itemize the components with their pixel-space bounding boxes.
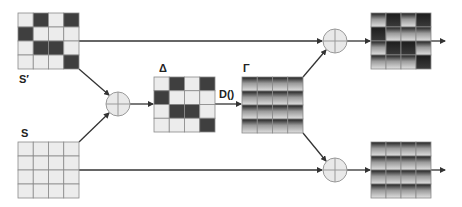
matrix-cell	[386, 13, 401, 27]
matrix-cell	[401, 184, 416, 198]
matrix-cell	[273, 91, 288, 105]
matrix-cell	[257, 119, 272, 133]
matrix-cell	[200, 105, 215, 119]
matrix-cell	[416, 27, 431, 41]
sum-node-top	[323, 29, 347, 53]
matrix-cell	[154, 91, 169, 105]
matrix-cell	[416, 170, 431, 184]
matrix-cell	[401, 156, 416, 170]
label-delta: Δ	[159, 62, 167, 74]
matrix-cell	[64, 156, 79, 170]
matrix-cell	[49, 13, 64, 27]
matrix-cell	[18, 55, 33, 69]
sum-node-1	[106, 92, 130, 116]
matrix-cell	[18, 184, 33, 198]
matrix-cell	[154, 77, 169, 91]
label-d-function: D()	[219, 88, 235, 100]
matrix-cell	[416, 55, 431, 69]
matrix-cell	[401, 170, 416, 184]
matrix-cell	[33, 27, 48, 41]
matrix-cell	[33, 156, 48, 170]
matrix-cell	[288, 105, 303, 119]
matrix-cell	[154, 105, 169, 119]
matrix-s	[18, 142, 79, 198]
arrow-gamma-to-bottom-sum	[303, 133, 326, 161]
arrow-gamma-to-top-sum	[303, 50, 326, 77]
matrix-cell	[33, 184, 48, 198]
label-s-prime: S′	[19, 73, 29, 85]
matrix-cell	[288, 119, 303, 133]
arrow-sprime-to-sum	[79, 69, 109, 95]
matrix-cell	[18, 41, 33, 55]
matrix-cell	[401, 55, 416, 69]
sum-node-bottom	[323, 158, 347, 182]
matrix-cell	[33, 142, 48, 156]
matrix-cell	[18, 170, 33, 184]
matrix-cell	[416, 142, 431, 156]
matrix-cell	[64, 41, 79, 55]
matrix-cell	[242, 119, 257, 133]
matrix-cell	[257, 77, 272, 91]
matrix-cell	[371, 156, 386, 170]
matrix-cell	[18, 142, 33, 156]
matrix-cell	[18, 156, 33, 170]
matrix-cell	[273, 77, 288, 91]
matrix-cell	[257, 105, 272, 119]
matrix-cell	[64, 142, 79, 156]
matrix-gamma	[242, 77, 303, 133]
matrix-output-bottom	[371, 142, 431, 198]
matrix-cell	[257, 91, 272, 105]
matrix-cell	[18, 27, 33, 41]
matrix-cell	[64, 13, 79, 27]
matrix-cell	[185, 77, 200, 91]
matrix-cell	[386, 170, 401, 184]
matrix-output-top	[371, 13, 431, 69]
label-s: S	[21, 127, 28, 139]
matrix-cell	[49, 184, 64, 198]
matrix-cell	[386, 27, 401, 41]
matrix-cell	[64, 184, 79, 198]
matrix-cell	[416, 13, 431, 27]
matrix-cell	[371, 13, 386, 27]
matrix-cell	[33, 41, 48, 55]
matrix-cell	[371, 170, 386, 184]
matrix-cell	[200, 118, 215, 132]
matrix-cell	[273, 119, 288, 133]
matrix-s-prime	[18, 13, 79, 69]
matrix-cell	[49, 156, 64, 170]
matrix-cell	[386, 55, 401, 69]
matrix-cell	[401, 142, 416, 156]
matrix-cell	[169, 118, 184, 132]
matrix-cell	[242, 77, 257, 91]
matrix-cell	[386, 142, 401, 156]
matrix-cell	[49, 55, 64, 69]
label-gamma: Γ	[243, 62, 250, 74]
matrix-cell	[401, 13, 416, 27]
matrix-cell	[416, 184, 431, 198]
matrix-cell	[386, 41, 401, 55]
matrix-cell	[49, 41, 64, 55]
matrix-cell	[49, 27, 64, 41]
diagram-canvas: S′ S Δ Γ D()	[0, 0, 462, 207]
matrix-cell	[416, 41, 431, 55]
matrix-cell	[416, 156, 431, 170]
matrix-cell	[49, 142, 64, 156]
matrix-cell	[386, 156, 401, 170]
matrix-cell	[242, 105, 257, 119]
matrix-cell	[169, 105, 184, 119]
matrix-cell	[401, 41, 416, 55]
matrix-cell	[185, 91, 200, 105]
matrix-cell	[169, 91, 184, 105]
matrix-cell	[200, 91, 215, 105]
matrix-cell	[154, 118, 169, 132]
matrix-cell	[169, 77, 184, 91]
matrix-cell	[386, 184, 401, 198]
matrix-cell	[242, 91, 257, 105]
matrix-cell	[371, 55, 386, 69]
matrix-cell	[288, 91, 303, 105]
matrix-cell	[33, 170, 48, 184]
matrix-cell	[185, 118, 200, 132]
matrix-cell	[273, 105, 288, 119]
arrow-s-to-sum	[79, 113, 109, 142]
matrix-cell	[18, 13, 33, 27]
